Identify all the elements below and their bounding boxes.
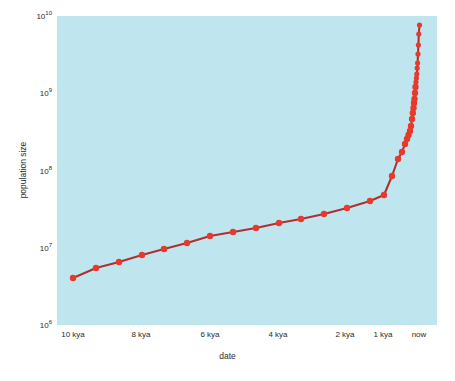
- data-point-marker: [276, 220, 282, 226]
- data-point-marker: [367, 198, 373, 204]
- data-point-marker: [412, 84, 418, 90]
- data-point-marker: [381, 192, 387, 198]
- data-point-marker: [230, 229, 236, 235]
- data-point-marker: [298, 216, 304, 222]
- data-series-layer: [0, 0, 455, 381]
- data-point-marker: [416, 42, 421, 47]
- data-point-marker: [395, 156, 401, 162]
- data-point-marker: [412, 90, 418, 96]
- data-point-marker: [321, 211, 327, 217]
- x-axis-tick-label: 4 kya: [268, 330, 287, 339]
- data-point-marker: [389, 173, 395, 179]
- data-point-marker: [409, 116, 415, 122]
- x-axis-tick-label: 6 kya: [200, 330, 219, 339]
- data-point-marker: [161, 246, 167, 252]
- data-point-marker: [408, 123, 414, 129]
- x-axis-tick-label: 1 kya: [373, 330, 392, 339]
- data-point-marker: [417, 22, 422, 27]
- data-point-marker: [415, 51, 420, 56]
- data-point-marker: [411, 96, 417, 102]
- data-point-marker: [415, 65, 420, 70]
- data-point-marker: [207, 233, 213, 239]
- data-point-marker: [139, 252, 145, 258]
- series-line: [73, 25, 420, 278]
- data-point-marker: [414, 71, 419, 76]
- x-axis-tick-label: now: [412, 330, 427, 339]
- data-point-marker: [253, 225, 259, 231]
- data-point-marker: [93, 265, 99, 271]
- x-axis-tick-label: 2 kya: [335, 330, 354, 339]
- data-point-marker: [70, 275, 76, 281]
- chart-figure: 1010109108107106 population size date 10…: [0, 0, 455, 381]
- population-series: [70, 22, 422, 281]
- data-point-marker: [184, 240, 190, 246]
- data-point-marker: [399, 149, 405, 155]
- data-point-marker: [416, 31, 421, 36]
- data-point-marker: [415, 60, 420, 65]
- x-axis-tick-label: 10 kya: [61, 330, 85, 339]
- data-point-marker: [116, 259, 122, 265]
- x-axis-tick-label: 8 kya: [131, 330, 150, 339]
- data-point-marker: [344, 205, 350, 211]
